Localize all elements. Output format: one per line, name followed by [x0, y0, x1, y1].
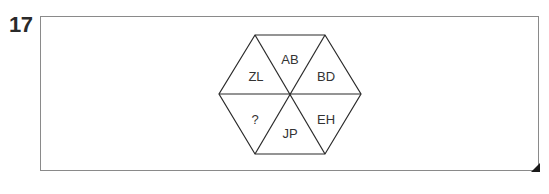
- segment-label-top: AB: [281, 52, 298, 67]
- segment-label-upper-left: ZL: [248, 69, 263, 84]
- segment-label-lower-right: EH: [317, 112, 335, 127]
- segment-label-upper-right: BD: [317, 69, 335, 84]
- segment-label-bottom: JP: [282, 126, 297, 141]
- segment-label-lower-left: ?: [251, 112, 258, 127]
- hexagon-diagram: AB BD EH JP ? ZL: [0, 0, 549, 194]
